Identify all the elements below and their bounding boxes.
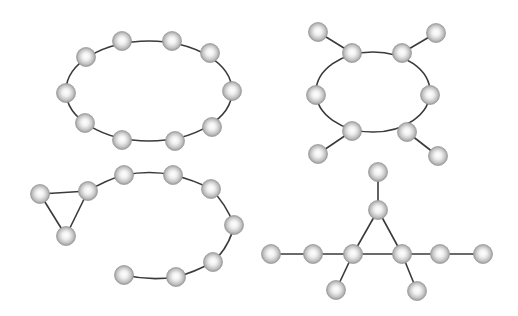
node-sphere xyxy=(223,82,242,101)
node-sphere xyxy=(309,23,328,42)
node-sphere xyxy=(203,118,222,137)
graph-diagram-canvas xyxy=(0,0,518,316)
node-sphere xyxy=(115,166,134,185)
node-sphere xyxy=(398,123,417,142)
node-sphere xyxy=(343,122,362,141)
node-sphere xyxy=(164,166,183,185)
node-sphere xyxy=(57,84,76,103)
node-sphere xyxy=(344,245,363,264)
node-sphere xyxy=(393,44,412,63)
node-sphere xyxy=(309,145,328,164)
node-sphere xyxy=(202,180,221,199)
node-sphere xyxy=(163,32,182,51)
node-sphere xyxy=(113,131,132,150)
node-sphere xyxy=(76,114,95,133)
node-sphere xyxy=(421,86,440,105)
node-sphere xyxy=(166,132,185,151)
node-sphere xyxy=(304,245,323,264)
node-sphere xyxy=(429,147,448,166)
node-sphere xyxy=(307,86,326,105)
node-sphere xyxy=(369,201,388,220)
node-sphere xyxy=(427,24,446,43)
node-sphere xyxy=(369,163,388,182)
node-sphere xyxy=(79,182,98,201)
node-sphere xyxy=(225,216,244,235)
node-sphere xyxy=(474,245,493,264)
node-sphere xyxy=(262,245,281,264)
node-sphere xyxy=(201,44,220,63)
node-sphere xyxy=(327,281,346,300)
node-sphere xyxy=(408,282,427,301)
node-sphere xyxy=(343,44,362,63)
node-sphere xyxy=(204,253,223,272)
node-sphere xyxy=(77,48,96,67)
node-sphere xyxy=(167,268,186,287)
node-sphere xyxy=(115,266,134,285)
node-sphere xyxy=(431,245,450,264)
node-sphere xyxy=(113,32,132,51)
node-sphere xyxy=(57,227,76,246)
node-sphere xyxy=(31,185,50,204)
node-sphere xyxy=(393,245,412,264)
